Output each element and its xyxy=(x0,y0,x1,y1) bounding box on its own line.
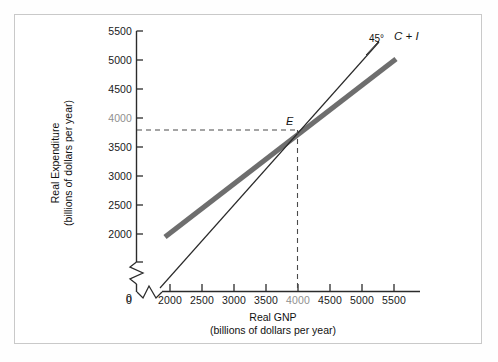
forty-five-degree-line xyxy=(160,42,379,288)
x-tick-label-4000: 4000 xyxy=(283,294,313,306)
x-tick-label-5500: 5500 xyxy=(379,294,409,306)
x-tick-label-3500: 3500 xyxy=(251,294,281,306)
x-axis-title: Real GNP xyxy=(178,311,368,323)
x-tick-label-0: 0 xyxy=(122,294,136,306)
x-tick-label-5000: 5000 xyxy=(347,294,377,306)
y-axis-ticks xyxy=(137,31,144,262)
y-axis-title-group: Real Expenditure (billions of dollars pe… xyxy=(49,83,75,243)
x-tick-label-3000: 3000 xyxy=(219,294,249,306)
y-axis-break-zigzag xyxy=(130,262,143,284)
y-axis-units: (billions of dollars per year) xyxy=(62,83,75,243)
y-tick-label-5500: 5500 xyxy=(96,25,132,37)
y-tick-label-5000: 5000 xyxy=(96,54,132,66)
x-tick-label-2500: 2500 xyxy=(187,294,217,306)
y-tick-label-4000: 4000 xyxy=(96,112,132,124)
y-tick-label-2500: 2500 xyxy=(96,199,132,211)
y-axis-title: Real Expenditure xyxy=(49,83,62,243)
y-tick-label-4500: 4500 xyxy=(96,83,132,95)
x-tick-label-2000: 2000 xyxy=(155,294,185,306)
forty-five-degree-label: 45° xyxy=(369,33,384,44)
x-axis-ticks xyxy=(170,284,394,292)
c-plus-i-curve xyxy=(165,59,396,237)
figure-container: 5500 5000 4500 4000 3500 3000 2500 2000 … xyxy=(0,0,498,362)
equilibrium-point-label: E xyxy=(286,115,293,127)
x-axis-units: (billions of dollars per year) xyxy=(178,324,368,336)
y-tick-label-3000: 3000 xyxy=(96,170,132,182)
c-plus-i-label: C + I xyxy=(394,30,419,42)
y-tick-label-2000: 2000 xyxy=(96,228,132,240)
x-tick-label-4500: 4500 xyxy=(315,294,345,306)
y-tick-label-3500: 3500 xyxy=(96,141,132,153)
